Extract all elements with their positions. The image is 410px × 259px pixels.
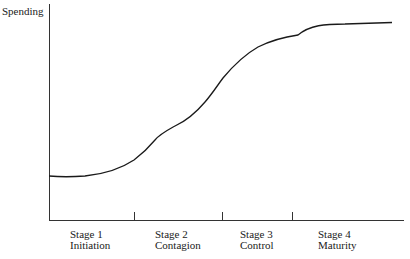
stage-name: Control <box>240 240 274 251</box>
stage-label-4: Stage 4 Maturity <box>318 229 357 251</box>
stage-name: Initiation <box>70 240 110 251</box>
stage-name: Contagion <box>155 240 201 251</box>
stage-label-2: Stage 2 Contagion <box>155 229 201 251</box>
stage-label-3: Stage 3 Control <box>240 229 274 251</box>
stage-label-1: Stage 1 Initiation <box>70 229 110 251</box>
stage-growth-diagram <box>0 0 410 259</box>
spending-curve <box>49 23 392 177</box>
stage-name: Maturity <box>318 240 357 251</box>
